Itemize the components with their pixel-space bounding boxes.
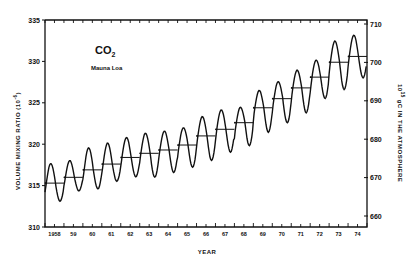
x-tick-label: 74 bbox=[354, 231, 361, 237]
annual-mean-marker bbox=[234, 122, 236, 124]
x-tick-label: 67 bbox=[222, 231, 228, 237]
x-tick-label: 60 bbox=[89, 231, 95, 237]
annual-mean-marker bbox=[45, 182, 47, 184]
x-tick-label: 64 bbox=[165, 231, 172, 237]
annual-mean-marker bbox=[158, 149, 160, 151]
x-tick-label: 1958 bbox=[48, 231, 60, 237]
annual-mean-marker bbox=[82, 169, 84, 171]
annual-mean-marker bbox=[329, 61, 331, 63]
annual-mean-marker bbox=[215, 128, 217, 130]
y-tick-label-right: 680 bbox=[370, 136, 382, 143]
x-tick-label: 66 bbox=[203, 231, 209, 237]
y-tick-label-right: 690 bbox=[370, 97, 382, 104]
annual-mean-marker bbox=[291, 87, 293, 89]
annual-mean-marker bbox=[196, 135, 198, 137]
y-axis-title-left: VOLUME MIXING RATIO (10-6) bbox=[13, 92, 21, 190]
annual-mean-marker bbox=[272, 98, 274, 100]
y-tick-label-left: 330 bbox=[28, 58, 40, 65]
x-tick-label: 73 bbox=[336, 231, 342, 237]
annual-mean-marker bbox=[64, 176, 66, 178]
y-tick-label-right: 710 bbox=[370, 21, 382, 28]
x-tick-label: 63 bbox=[146, 231, 152, 237]
y-tick-label-right: 670 bbox=[370, 174, 382, 181]
annual-mean-marker bbox=[253, 107, 255, 109]
y-tick-label-right: 700 bbox=[370, 59, 382, 66]
x-tick-label: 71 bbox=[298, 231, 304, 237]
x-tick-label: 59 bbox=[70, 231, 76, 237]
y-tick-label-left: 310 bbox=[28, 224, 40, 231]
seasonal-curve bbox=[45, 35, 366, 201]
annual-mean-marker bbox=[348, 56, 350, 58]
x-tick-label: 70 bbox=[279, 231, 285, 237]
x-tick-label: 61 bbox=[108, 231, 114, 237]
x-tick-label: 65 bbox=[184, 231, 190, 237]
y-tick-label-left: 335 bbox=[28, 17, 40, 24]
x-axis-title: YEAR bbox=[198, 249, 217, 255]
annual-mean-marker bbox=[139, 152, 141, 154]
x-tick-label: 69 bbox=[260, 231, 266, 237]
annual-mean-marker bbox=[310, 76, 312, 78]
plot-frame bbox=[45, 20, 367, 227]
y-tick-label-left: 320 bbox=[28, 141, 40, 148]
annual-mean-marker bbox=[101, 163, 103, 165]
annual-mean-marker bbox=[120, 157, 122, 159]
monthly-co2-line bbox=[45, 35, 366, 201]
y-tick-label-left: 325 bbox=[28, 99, 40, 106]
chart-svg: 3103153203253303356606706806907007101958… bbox=[0, 0, 413, 261]
x-tick-label: 62 bbox=[127, 231, 133, 237]
y-axis-title-right: 1015gC IN THE ATMOSPHERE bbox=[397, 84, 405, 182]
y-tick-label-right: 660 bbox=[370, 213, 382, 220]
y-tick-label-left: 315 bbox=[28, 182, 40, 189]
x-tick-label: 72 bbox=[317, 231, 323, 237]
co2-chart: 3103153203253303356606706806907007101958… bbox=[0, 0, 413, 261]
annual-mean-marker bbox=[177, 144, 179, 146]
chart-title: CO2 bbox=[95, 44, 116, 58]
chart-subtitle: Mauna Loa bbox=[91, 65, 123, 71]
x-tick-label: 68 bbox=[241, 231, 247, 237]
